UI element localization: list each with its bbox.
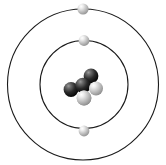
- electron-inner-bottom: [79, 126, 90, 137]
- nucleus-neutron-right: [89, 82, 103, 96]
- electron-inner-top: [79, 35, 90, 46]
- atom-canvas: [0, 0, 166, 165]
- nucleus-neutron-bottom: [77, 91, 92, 106]
- electron-outer-top: [77, 3, 88, 14]
- bohr-atom-diagram: [0, 0, 166, 165]
- nucleus-group: [64, 69, 103, 106]
